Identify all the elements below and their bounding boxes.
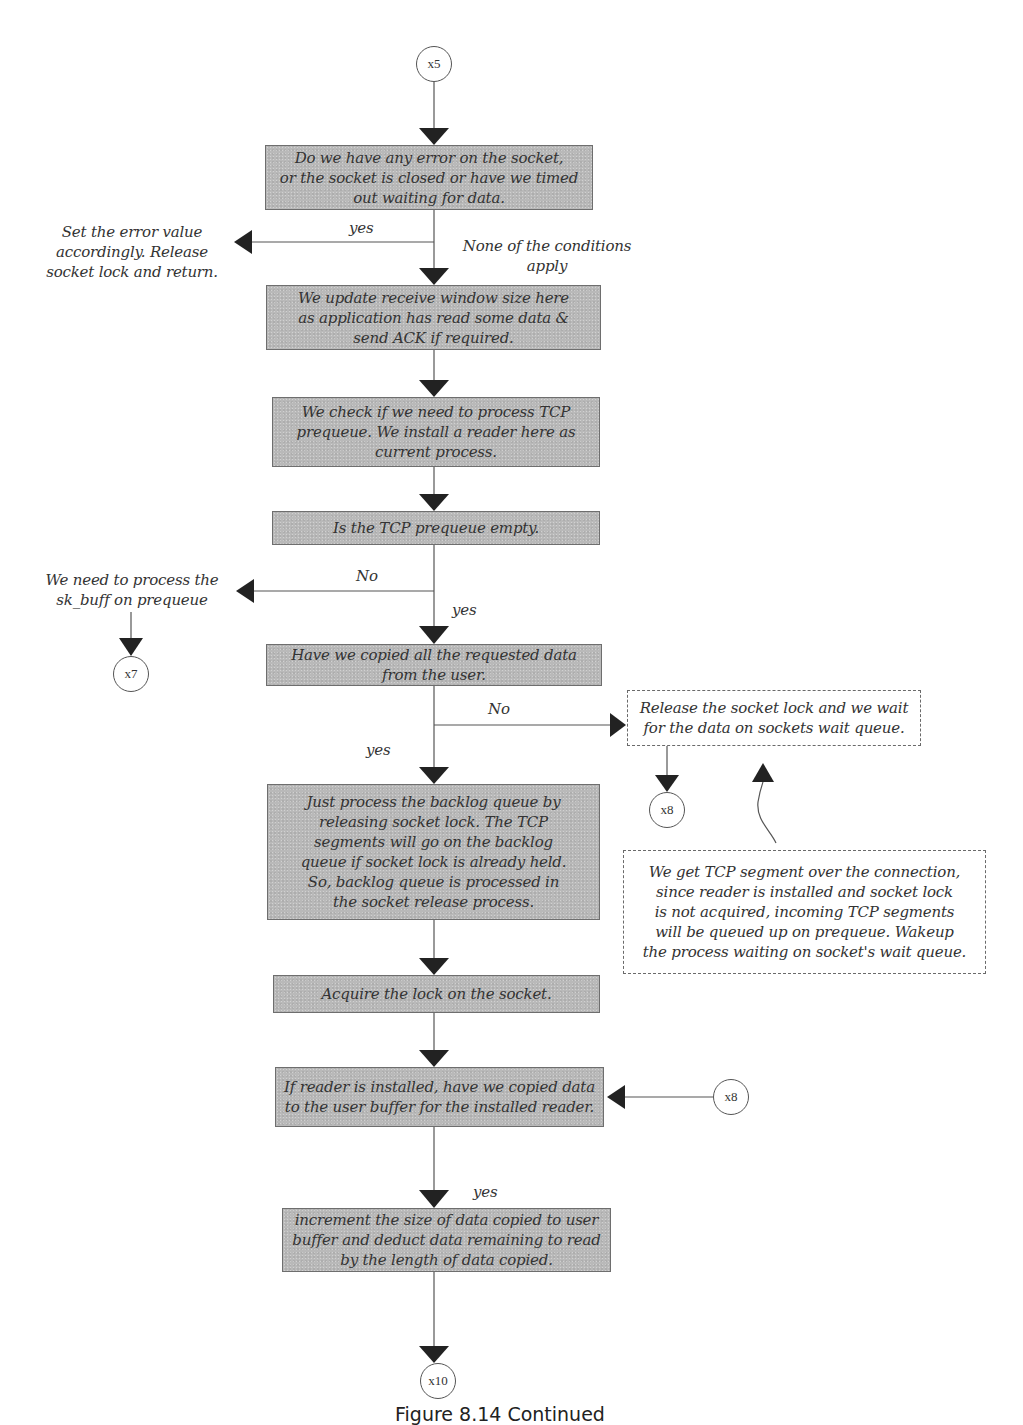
box-acquire-socket-lock: Acquire the lock on the socket. — [273, 975, 600, 1013]
edge-label-none-of-conditions: None of the conditions apply — [452, 236, 642, 276]
box-release-lock-and-wait: Release the socket lock and we wait for … — [627, 690, 921, 746]
connector-x5: x5 — [416, 46, 452, 82]
connector-label: x10 — [428, 1373, 448, 1389]
box-check-socket-error: Do we have any error on the socket, or t… — [265, 145, 593, 210]
note-process-skbuff-prequeue: We need to process the sk_buff on preque… — [30, 570, 234, 610]
box-update-receive-window: We update receive window size here as ap… — [266, 285, 601, 350]
edge-label-prequeue-yes: yes — [452, 600, 476, 620]
connector-x8-wait: x8 — [649, 792, 685, 828]
box-increment-data-size: increment the size of data copied to use… — [282, 1208, 611, 1272]
connector-label: x8 — [661, 802, 674, 818]
connector-x8-entry: x8 — [713, 1079, 749, 1115]
box-reader-copied-decision: If reader is installed, have we copied d… — [275, 1067, 604, 1127]
box-check-prequeue: We check if we need to process TCP prequ… — [272, 397, 600, 467]
connector-label: x8 — [725, 1089, 738, 1105]
note-set-error-value: Set the error value accordingly. Release… — [34, 222, 230, 282]
connector-label: x7 — [125, 666, 138, 682]
box-copied-all-data-decision: Have we copied all the requested data fr… — [266, 644, 602, 686]
edge-label-copied-no: No — [488, 699, 510, 719]
connector-x10: x10 — [420, 1363, 456, 1399]
edge-label-copied-yes: yes — [366, 740, 390, 760]
connector-x7: x7 — [113, 656, 149, 692]
box-prequeue-empty-decision: Is the TCP prequeue empty. — [272, 511, 600, 545]
edge-label-error-yes: yes — [349, 218, 373, 238]
edge-label-prequeue-no: No — [356, 566, 378, 586]
edge-label-reader-yes: yes — [473, 1182, 497, 1202]
box-process-backlog-queue: Just process the backlog queue by releas… — [267, 784, 600, 920]
figure-caption: Figure 8.14 Continued — [395, 1403, 605, 1425]
connector-label: x5 — [428, 56, 441, 72]
note-tcp-segment-arrival: We get TCP segment over the connection, … — [623, 850, 986, 974]
